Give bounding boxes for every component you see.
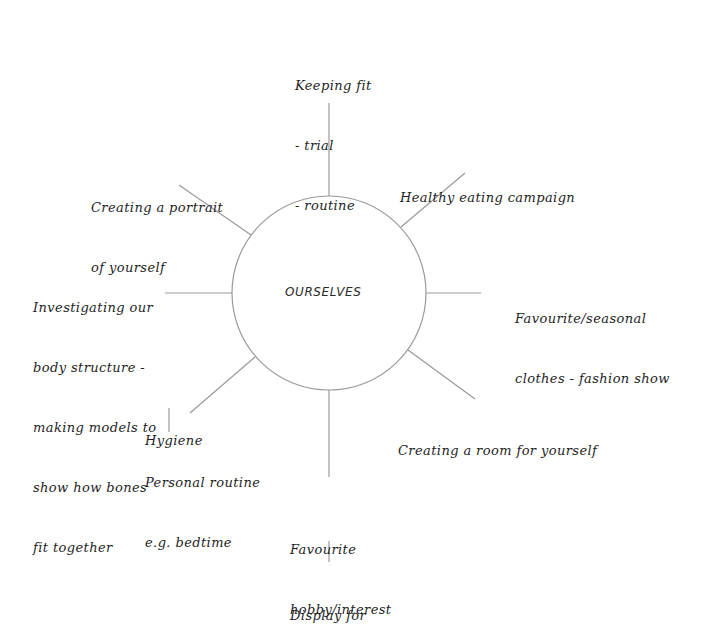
node-text-line: Investigating our <box>33 298 157 318</box>
node-text-line: e.g. bedtime <box>145 533 260 553</box>
node-text-line: Favourite/seasonal <box>515 309 670 329</box>
node-text-line: Healthy eating campaign <box>400 188 575 208</box>
node-healthy-eating: Healthy eating campaign <box>400 148 575 228</box>
edge-room <box>408 350 475 399</box>
node-portrait: Creating a portrait of yourself <box>91 158 223 298</box>
node-text-line: show how bones <box>33 478 157 498</box>
node-text-line: Creating a portrait <box>91 198 223 218</box>
node-text-line: - trial <box>295 136 372 156</box>
node-text-line: Display for <box>290 606 366 626</box>
node-text-line: clothes - fashion show <box>515 369 670 389</box>
node-text-line: Creating a room for yourself <box>398 441 597 461</box>
node-text-line: body structure - <box>33 358 157 378</box>
node-display: Display for others to enjoy <box>290 566 366 644</box>
node-room: Creating a room for yourself <box>398 401 597 481</box>
node-body-structure: Investigating our body structure - makin… <box>33 258 157 578</box>
node-text-line: Keeping fit <box>295 76 372 96</box>
node-keeping-fit: Keeping fit - trial - routine <box>295 36 372 236</box>
node-text-line: fit together <box>33 538 157 558</box>
center-topic-label: OURSELVES <box>285 285 361 299</box>
node-text-line: of yourself <box>91 258 223 278</box>
node-text-line: Personal routine <box>145 473 260 493</box>
node-text-line: Favourite <box>290 540 391 560</box>
node-text-line: - routine <box>295 196 372 216</box>
node-text-line: making models to <box>33 418 157 438</box>
node-personal-routine: Personal routine e.g. bedtime <box>145 433 260 573</box>
node-favourite-clothes: Favourite/seasonal clothes - fashion sho… <box>515 269 670 409</box>
